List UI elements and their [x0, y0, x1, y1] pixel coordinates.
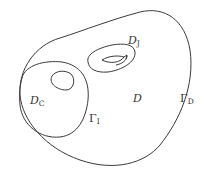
label-dc: DC: [29, 94, 45, 108]
domain-diagram: DJ DC D ΓI ΓD: [0, 0, 205, 180]
crack-tip-arrow: [124, 55, 127, 59]
label-d: D: [132, 92, 142, 105]
crack-lens: [102, 56, 124, 62]
label-dj: DJ: [127, 34, 140, 48]
label-gamma-d: ΓD: [180, 92, 194, 106]
crack-arc: [116, 56, 127, 65]
inner-inclusion: [51, 71, 74, 90]
dj-region-oval: [88, 44, 135, 72]
label-gamma-i: ΓI: [89, 112, 100, 126]
outer-boundary-gamma-d: [20, 11, 191, 166]
